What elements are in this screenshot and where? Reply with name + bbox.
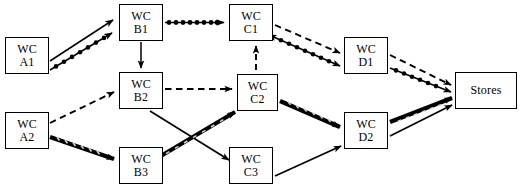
edge-a1-b1-beaded bbox=[50, 33, 112, 70]
node-stores[interactable]: Stores bbox=[455, 72, 517, 109]
node-wc-b2[interactable]: WC B2 bbox=[119, 72, 163, 109]
node-label-line1: WC bbox=[17, 43, 37, 56]
edge-c2-d2-hatched bbox=[280, 101, 340, 127]
edge-c1-d1-dashed bbox=[275, 25, 340, 53]
edge-c1-d1-beaded bbox=[269, 35, 340, 66]
node-wc-c1[interactable]: WC C1 bbox=[229, 4, 273, 41]
node-label-line1: WC bbox=[131, 78, 151, 91]
node-label-line2: B3 bbox=[134, 166, 148, 179]
node-label-line1: WC bbox=[241, 10, 261, 23]
node-label-line2: B2 bbox=[134, 91, 148, 104]
node-wc-c2[interactable]: WC C2 bbox=[237, 74, 278, 111]
flow-diagram: WC A1 WC A2 WC B1 WC B2 WC B3 WC C1 WC C… bbox=[0, 0, 522, 196]
node-label-line1: WC bbox=[17, 118, 37, 131]
edge-a2-b3-hatched bbox=[50, 137, 114, 159]
node-label-line2: D2 bbox=[358, 131, 373, 144]
node-label-line2: B1 bbox=[134, 23, 148, 36]
node-wc-d1[interactable]: WC D1 bbox=[344, 37, 388, 74]
node-label-line2: C1 bbox=[244, 23, 258, 36]
edge-a2-b2-dashed bbox=[50, 92, 114, 123]
node-label-line2: D1 bbox=[358, 56, 373, 69]
node-label-line1: WC bbox=[241, 153, 261, 166]
node-label-line2: C3 bbox=[244, 166, 258, 179]
node-label-line2: A1 bbox=[19, 56, 34, 69]
node-wc-b3[interactable]: WC B3 bbox=[119, 147, 163, 184]
node-label-line1: WC bbox=[356, 43, 376, 56]
node-wc-d2[interactable]: WC D2 bbox=[344, 112, 388, 149]
node-wc-a2[interactable]: WC A2 bbox=[5, 112, 49, 149]
node-wc-b1[interactable]: WC B1 bbox=[119, 4, 163, 41]
node-wc-a1[interactable]: WC A1 bbox=[5, 37, 49, 74]
edge-c3-d2-solid bbox=[275, 146, 341, 176]
node-label-line2: C2 bbox=[250, 93, 264, 106]
edge-b1-c1-beaded bbox=[165, 20, 224, 25]
node-label-line2: A2 bbox=[19, 131, 34, 144]
edge-a1-b1-solid bbox=[50, 20, 113, 61]
node-label-line1: WC bbox=[131, 153, 151, 166]
node-wc-c3[interactable]: WC C3 bbox=[229, 147, 273, 184]
node-label-line1: Stores bbox=[470, 84, 501, 97]
node-label-line1: WC bbox=[248, 80, 268, 93]
node-label-line1: WC bbox=[356, 118, 376, 131]
edge-b3-c2-hatched bbox=[154, 112, 235, 160]
node-label-line1: WC bbox=[131, 10, 151, 23]
